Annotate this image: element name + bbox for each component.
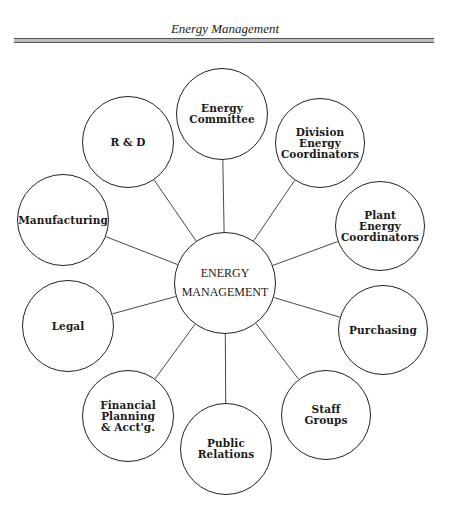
- node-purchasing: Purchasing: [338, 285, 428, 375]
- node-label: Plant Energy Coordinators: [341, 210, 419, 243]
- node-financial-planning: Financial Planning & Acct'g.: [82, 370, 174, 462]
- connector-line: [223, 160, 224, 232]
- node-label: Division Energy Coordinators: [281, 127, 359, 160]
- connector-line: [154, 180, 196, 241]
- connector-line: [256, 324, 299, 380]
- connector-line: [254, 180, 295, 241]
- node-plant-energy-coordinators: Plant Energy Coordinators: [335, 181, 425, 271]
- node-label: Purchasing: [349, 325, 417, 336]
- connector-line: [112, 296, 175, 313]
- connector-line: [273, 242, 338, 266]
- node-label: Legal: [52, 321, 85, 332]
- node-label: R & D: [110, 137, 145, 148]
- node-division-energy-coordinators: Division Energy Coordinators: [275, 98, 365, 188]
- node-energy-committee: Energy Committee: [176, 68, 268, 160]
- connector-line: [274, 298, 340, 318]
- node-label: Staff Groups: [305, 404, 348, 426]
- node-label: Financial Planning & Acct'g.: [100, 400, 156, 433]
- center-node-energy-management: ENERGY MANAGEMENT: [174, 232, 276, 334]
- node-manufacturing: Manufacturing: [17, 174, 109, 266]
- node-label: Public Relations: [198, 438, 255, 460]
- node-legal: Legal: [22, 280, 114, 372]
- node-r-and-d: R & D: [82, 96, 174, 188]
- node-public-relations: Public Relations: [180, 403, 272, 495]
- center-node-label: ENERGY MANAGEMENT: [182, 264, 269, 302]
- connector-line: [106, 237, 178, 265]
- node-label: Manufacturing: [18, 215, 108, 226]
- node-staff-groups: Staff Groups: [281, 370, 371, 460]
- connector-line: [155, 324, 195, 379]
- node-label: Energy Committee: [189, 103, 255, 125]
